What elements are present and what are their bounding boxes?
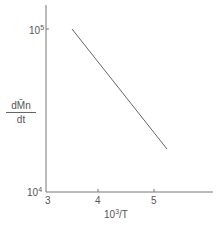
y-tick-label-1e4: 104 xyxy=(27,186,42,198)
y-tick-label-1e5: 105 xyxy=(29,24,44,36)
x-tick-label-3: 3 xyxy=(45,196,51,206)
x-tick-label-4: 4 xyxy=(95,196,101,206)
x-axis-label: 103/T xyxy=(104,208,128,220)
y-axis-label: dM̄n dt xyxy=(6,100,36,125)
x-tick-label-5: 5 xyxy=(151,196,157,206)
data-line xyxy=(72,29,167,149)
